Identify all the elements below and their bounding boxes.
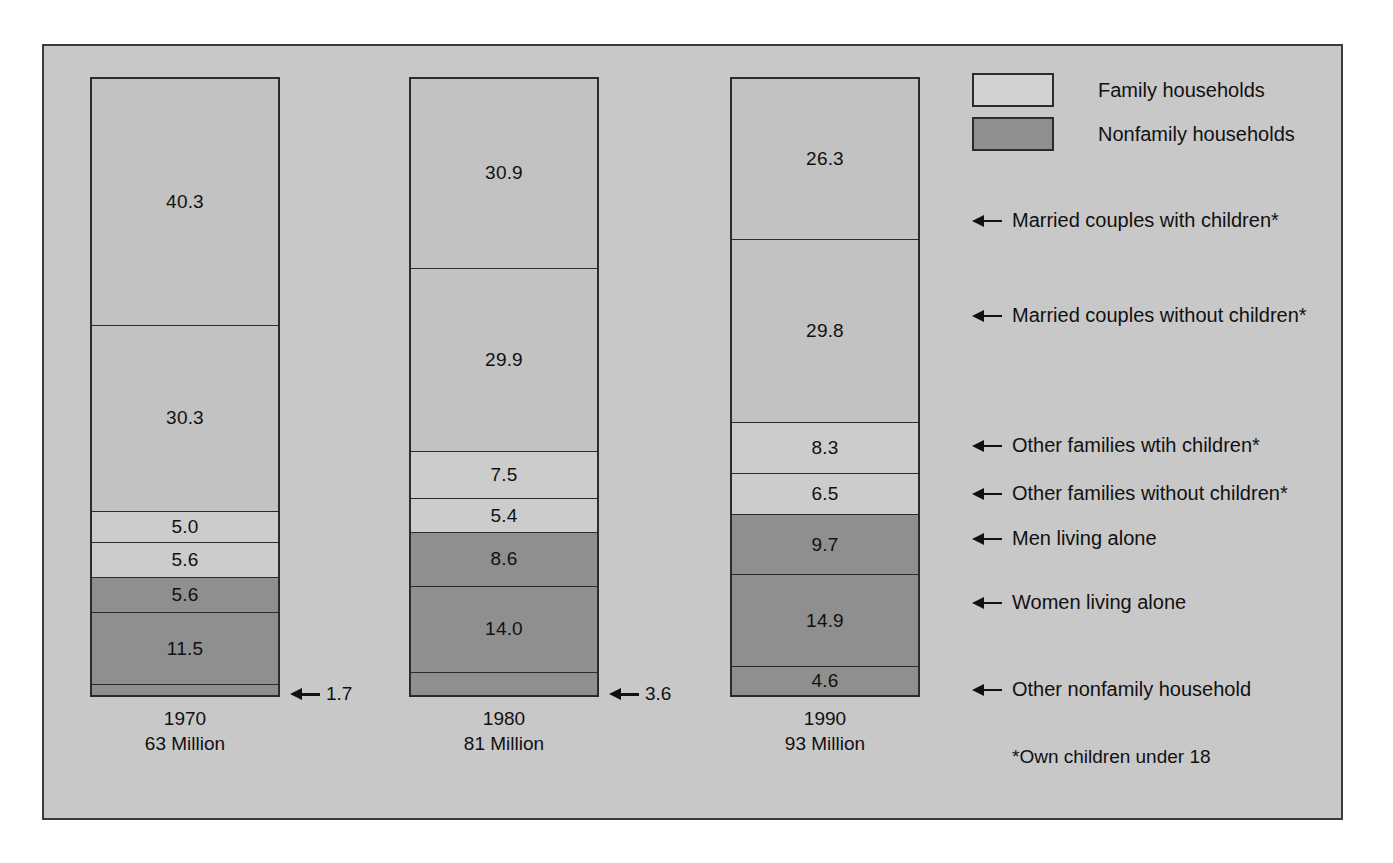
- stacked-bar-1980: 30.929.97.55.48.614.0: [409, 77, 599, 697]
- bar-segment-1980-2: 7.5: [411, 452, 597, 499]
- arrow-left-icon: [972, 488, 1002, 500]
- segment-value-label: 26.3: [806, 148, 844, 170]
- bar-segment-1970-6: [92, 685, 278, 695]
- annotation-label: Other nonfamily household: [1012, 678, 1251, 701]
- segment-value-label: 5.6: [171, 584, 198, 606]
- bar-year-label-1970: 1970: [90, 706, 280, 731]
- segment-value-label: 11.5: [167, 638, 203, 660]
- segment-value-label: 40.3: [166, 191, 204, 213]
- segment-value-label: 7.5: [490, 464, 517, 486]
- arrow-left-icon: [972, 684, 1002, 696]
- bar-segment-1990-1: 29.8: [732, 240, 918, 423]
- bar-segment-1990-5: 14.9: [732, 575, 918, 667]
- bar-segment-1990-2: 8.3: [732, 423, 918, 475]
- bar-year-label-1990: 1990: [730, 706, 920, 731]
- bar-segment-1980-3: 5.4: [411, 499, 597, 533]
- bar-group-1990: 26.329.88.36.59.714.94.6: [730, 77, 920, 697]
- arrow-left-icon: [972, 597, 1002, 609]
- annotation-label: Men living alone: [1012, 527, 1157, 550]
- callout-1980: 3.6: [609, 683, 671, 705]
- segment-value-label: 14.9: [806, 610, 844, 632]
- segment-value-label: 29.8: [806, 320, 844, 342]
- segment-value-label: 30.3: [166, 407, 204, 429]
- bar-segment-1980-6: [411, 673, 597, 695]
- bar-segment-1980-4: 8.6: [411, 533, 597, 587]
- bar-caption-1980: 1980 81 Million: [409, 706, 599, 756]
- bar-total-label-1980: 81 Million: [409, 731, 599, 756]
- annotation-callout-4: Men living alone: [972, 527, 1157, 550]
- bar-segment-1980-1: 29.9: [411, 269, 597, 453]
- stacked-bar-1970: 40.330.35.05.65.611.5: [90, 77, 280, 697]
- annotation-callout-0: Married couples with children*: [972, 209, 1279, 232]
- segment-value-label: 5.0: [171, 516, 198, 538]
- bar-segment-1970-4: 5.6: [92, 578, 278, 613]
- annotation-label: Other families wtih children*: [1012, 434, 1260, 457]
- arrow-left-icon: [609, 688, 639, 700]
- bar-segment-1980-0: 30.9: [411, 79, 597, 269]
- legend-item-family: Family households: [972, 68, 1295, 112]
- annotation-label: Women living alone: [1012, 591, 1186, 614]
- bar-group-1970: 40.330.35.05.65.611.5: [90, 77, 280, 697]
- segment-value-label: 8.3: [811, 437, 838, 459]
- bar-segment-1990-6: 4.6: [732, 667, 918, 695]
- segment-value-label: 5.4: [490, 505, 517, 527]
- figure-frame: 40.330.35.05.65.611.5 1970 63 Million 1.…: [42, 44, 1343, 820]
- callout-value-1980: 3.6: [645, 683, 671, 705]
- segment-value-label: 9.7: [811, 534, 838, 556]
- bar-segment-1990-4: 9.7: [732, 515, 918, 575]
- bar-segment-1990-3: 6.5: [732, 474, 918, 515]
- arrow-left-icon: [290, 688, 320, 700]
- bar-segment-1970-5: 11.5: [92, 613, 278, 684]
- arrow-left-icon: [972, 533, 1002, 545]
- bar-year-label-1980: 1980: [409, 706, 599, 731]
- annotation-label: Other families without children*: [1012, 482, 1288, 505]
- segment-value-label: 14.0: [485, 618, 523, 640]
- bar-segment-1980-5: 14.0: [411, 587, 597, 673]
- annotation-callout-2: Other families wtih children*: [972, 434, 1260, 457]
- bar-caption-1970: 1970 63 Million: [90, 706, 280, 756]
- annotation-label: Married couples with children*: [1012, 209, 1279, 232]
- bar-group-1980: 30.929.97.55.48.614.0: [409, 77, 599, 697]
- annotation-callout-5: Women living alone: [972, 591, 1186, 614]
- legend-item-nonfamily: Nonfamily households: [972, 112, 1295, 156]
- arrow-left-icon: [972, 440, 1002, 452]
- chart-footnote: *Own children under 18: [1012, 746, 1211, 768]
- legend-label: Family households: [1098, 79, 1265, 102]
- bar-segment-1990-0: 26.3: [732, 79, 918, 240]
- bar-segment-1970-0: 40.3: [92, 79, 278, 326]
- segment-value-label: 6.5: [811, 483, 838, 505]
- arrow-left-icon: [972, 215, 1002, 227]
- chart-legend: Family householdsNonfamily households: [972, 68, 1295, 156]
- segment-value-label: 30.9: [485, 162, 523, 184]
- legend-swatch-family: [972, 73, 1054, 107]
- annotation-callout-6: Other nonfamily household: [972, 678, 1251, 701]
- bar-total-label-1970: 63 Million: [90, 731, 280, 756]
- segment-value-label: 5.6: [171, 549, 198, 571]
- annotation-callout-1: Married couples without children*: [972, 304, 1307, 327]
- bar-total-label-1990: 93 Million: [730, 731, 920, 756]
- bar-segment-1970-1: 30.3: [92, 326, 278, 512]
- legend-swatch-nonfamily: [972, 117, 1054, 151]
- segment-value-label: 29.9: [485, 349, 523, 371]
- bar-segment-1970-2: 5.0: [92, 512, 278, 544]
- callout-1970: 1.7: [290, 683, 352, 705]
- annotation-label: Married couples without children*: [1012, 304, 1307, 327]
- stacked-bar-1990: 26.329.88.36.59.714.94.6: [730, 77, 920, 697]
- bar-segment-1970-3: 5.6: [92, 543, 278, 578]
- callout-value-1970: 1.7: [326, 683, 352, 705]
- plot-area: 40.330.35.05.65.611.5 1970 63 Million 1.…: [44, 46, 1341, 818]
- legend-label: Nonfamily households: [1098, 123, 1295, 146]
- arrow-left-icon: [972, 310, 1002, 322]
- segment-value-label: 4.6: [811, 670, 838, 692]
- segment-value-label: 8.6: [490, 548, 517, 570]
- annotation-callout-3: Other families without children*: [972, 482, 1288, 505]
- bar-caption-1990: 1990 93 Million: [730, 706, 920, 756]
